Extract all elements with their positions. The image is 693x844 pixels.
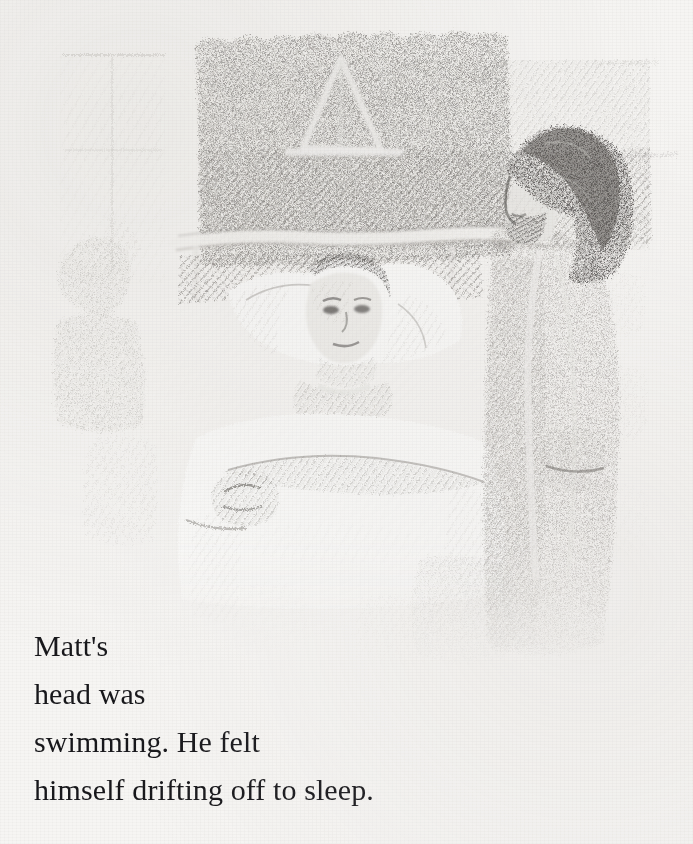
- illustration-canvas: [0, 0, 693, 680]
- book-page: Matt's head was swimming. He felt himsel…: [0, 0, 693, 844]
- body-text-line-3: swimming. He felt: [34, 718, 674, 766]
- hospital-bed-illustration: [0, 0, 693, 680]
- body-text-block: Matt's head was swimming. He felt himsel…: [34, 622, 674, 814]
- body-text-line-1: Matt's: [34, 622, 674, 670]
- body-text-line-4: himself drifting off to sleep.: [34, 766, 674, 814]
- body-text-line-2: head was: [34, 670, 674, 718]
